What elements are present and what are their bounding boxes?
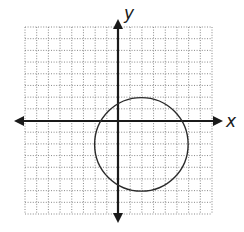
x-axis-label: x (225, 111, 237, 131)
y-axis-bottom-arrow-icon (113, 213, 123, 223)
y-axis-top-arrow-icon (113, 19, 123, 29)
circle-graph (95, 98, 189, 192)
x-axis-right-arrow-icon (213, 116, 223, 126)
y-axis-label: y (123, 3, 135, 23)
coordinate-plane: x y (0, 0, 244, 232)
x-axis-left-arrow-icon (14, 116, 24, 126)
